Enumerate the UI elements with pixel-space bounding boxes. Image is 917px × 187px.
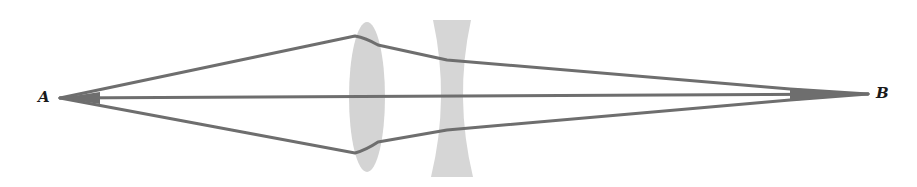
- point-a-label: A: [38, 90, 50, 105]
- diverging-lens: [431, 20, 473, 177]
- optics-ray-diagram: [0, 0, 917, 187]
- point-b-vertex: [790, 88, 868, 101]
- axial-ray: [60, 94, 868, 98]
- point-b-label: B: [876, 86, 889, 101]
